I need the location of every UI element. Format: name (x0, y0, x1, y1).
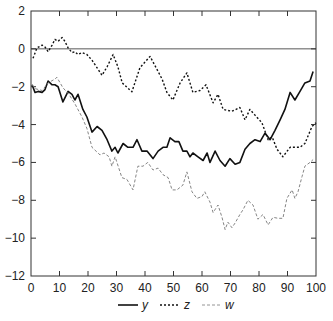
legend-item-w: w (202, 298, 235, 312)
x-tick-label: 50 (167, 281, 181, 295)
x-tick-label: 90 (281, 281, 295, 295)
y-tick-label: −8 (11, 193, 25, 207)
legend-item-z: z (160, 298, 190, 312)
x-tick-label: 70 (224, 281, 238, 295)
legend: y z w (118, 298, 235, 312)
x-tick-label: 100 (306, 281, 326, 295)
x-tick-label: 10 (53, 281, 67, 295)
legend-item-y: y (118, 298, 149, 312)
legend-label-z: z (183, 298, 190, 312)
x-tick-label: 40 (138, 281, 152, 295)
x-tick-label: 60 (195, 281, 209, 295)
y-tick-label: 2 (18, 4, 25, 18)
plot-border (31, 11, 316, 276)
x-tick-label: 20 (81, 281, 95, 295)
legend-label-y: y (141, 298, 149, 312)
series-z-line (33, 38, 316, 157)
y-tick-label: −12 (5, 269, 26, 283)
x-tick-label: 30 (110, 281, 124, 295)
line-chart: 20−2−4−6−8−10−12 0102030405060708090100 … (0, 0, 333, 321)
x-tick-label: 0 (28, 281, 35, 295)
x-tick-label: 80 (252, 281, 266, 295)
series-y-line (32, 72, 313, 167)
legend-label-w: w (225, 298, 235, 312)
y-tick-label: 0 (18, 42, 25, 56)
y-tick-label: −10 (5, 231, 26, 245)
series-layer (32, 38, 316, 230)
y-tick-label: −6 (11, 155, 25, 169)
y-tick-label: −2 (11, 80, 25, 94)
x-axis: 0102030405060708090100 (28, 11, 327, 295)
y-tick-label: −4 (11, 118, 25, 132)
plot-frame (31, 11, 316, 276)
